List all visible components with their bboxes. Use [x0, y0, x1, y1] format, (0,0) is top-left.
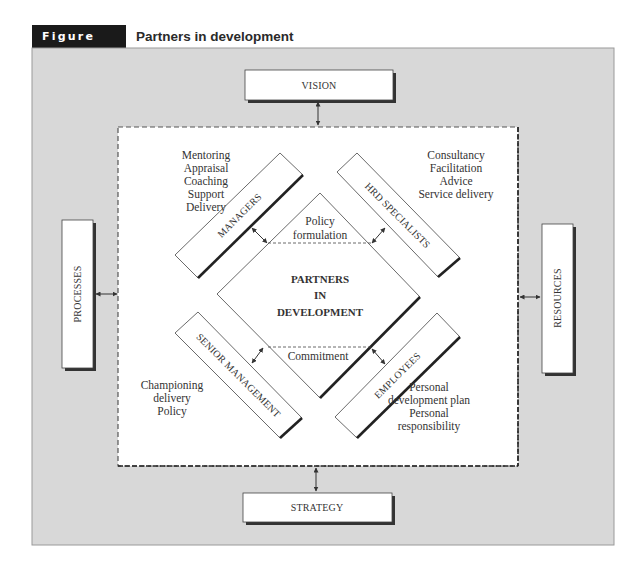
role-item: Coaching: [184, 175, 228, 188]
strategy-box: STRATEGY: [243, 493, 395, 525]
commitment-text: Commitment: [288, 350, 350, 362]
role-item: Personal: [409, 381, 449, 393]
resources-label: RESOURCES: [552, 268, 563, 328]
role-item: Policy: [157, 405, 187, 418]
role-item: Championing: [141, 379, 204, 392]
role-item: delivery: [153, 392, 191, 405]
center-line-2: IN: [314, 289, 326, 301]
formulation-text: formulation: [293, 229, 348, 241]
partners-diagram: VISION STRATEGY PROCESSES RESOURCES Poli…: [0, 0, 642, 570]
role-item: Mentoring: [182, 149, 231, 162]
role-item: Advice: [439, 175, 472, 187]
vision-box: VISION: [245, 70, 396, 103]
processes-box: PROCESSES: [62, 220, 96, 371]
resources-box: RESOURCES: [542, 224, 576, 376]
role-item: Consultancy: [427, 149, 485, 162]
role-item: responsibility: [398, 420, 461, 433]
policy-text: Policy: [305, 215, 335, 228]
role-item: Appraisal: [184, 162, 229, 175]
role-item: Service delivery: [418, 188, 493, 201]
managers-roles: Mentoring Appraisal Coaching Support Del…: [182, 149, 231, 214]
role-item: development plan: [388, 394, 470, 407]
processes-label: PROCESSES: [72, 266, 83, 323]
role-item: Personal: [409, 407, 449, 419]
center-line-1: PARTNERS: [291, 273, 349, 285]
strategy-label: STRATEGY: [291, 502, 344, 513]
role-item: Facilitation: [430, 162, 483, 174]
role-item: Support: [188, 188, 225, 201]
role-item: Delivery: [186, 201, 226, 214]
vision-label: VISION: [301, 80, 336, 91]
center-line-3: DEVELOPMENT: [277, 306, 364, 318]
